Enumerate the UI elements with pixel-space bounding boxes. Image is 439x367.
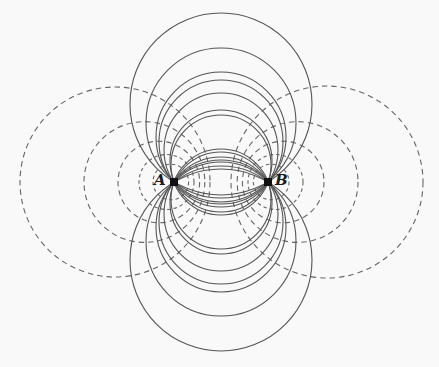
dashed-circle xyxy=(139,155,194,210)
dashed-circle xyxy=(20,87,210,277)
solid-circle xyxy=(130,169,312,351)
point-a-marker xyxy=(170,178,178,186)
diagram-canvas: A B xyxy=(0,0,439,367)
points xyxy=(170,178,272,186)
dashed-circle xyxy=(231,86,423,278)
point-a-label: A xyxy=(154,173,166,188)
point-b-marker xyxy=(264,178,272,186)
solid-circle xyxy=(170,110,272,212)
orthogonal-circles-figure xyxy=(0,0,439,367)
solid-circle xyxy=(171,149,271,249)
solid-circle xyxy=(130,13,312,195)
dashed-circle xyxy=(237,122,358,243)
solid-circle xyxy=(171,115,271,215)
dashed-circle xyxy=(84,122,205,243)
point-b-label: B xyxy=(275,173,288,188)
solid-circle xyxy=(170,152,272,254)
